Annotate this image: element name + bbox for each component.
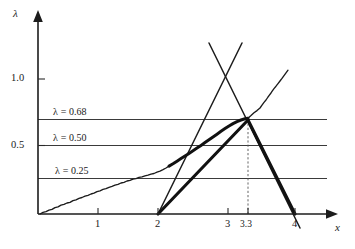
x-tick-label-1: 1 (95, 219, 100, 230)
x-axis-arrow-icon (326, 209, 338, 219)
y-tick-label-1.0: 1.0 (11, 73, 24, 84)
thin-rays-group (158, 43, 300, 228)
empirical-curve-upper-tail (248, 70, 288, 118)
x-axis-title: x (335, 222, 340, 233)
level-value-025: = 0.25 (63, 165, 89, 176)
y-tick-label-0.5: 0.5 (11, 140, 24, 151)
lambda-symbol-068: λ (53, 106, 61, 117)
level-value-050: = 0.50 (61, 132, 87, 143)
x-tick-label-2: 2 (155, 219, 160, 230)
level-label-050: λ= 0.50 (53, 133, 87, 143)
lambda-symbol-050: λ (53, 132, 61, 143)
y-axis-arrow-icon (33, 10, 43, 22)
left-thin-ray (158, 43, 242, 214)
y-axis-title: λ (13, 8, 18, 19)
left-bold-ray (158, 120, 248, 214)
bold-rays-group (158, 120, 295, 214)
x-tick-label-3.3: 3.3 (240, 220, 252, 230)
x-tick-label-4: 4 (292, 219, 297, 230)
level-label-025: λ= 0.25 (55, 166, 89, 176)
chart-figure: λ x 1.0 0.5 1 2 3 3.3 4 λ= 0.68 λ= 0.50 … (0, 0, 355, 249)
right-bold-ray (248, 120, 295, 214)
empirical-curve-bold-segment (169, 118, 248, 166)
tick-marks-group (38, 79, 295, 214)
lambda-symbol-025: λ (55, 165, 63, 176)
plot-canvas (0, 0, 355, 249)
x-tick-label-3: 3 (225, 219, 230, 230)
level-label-068: λ= 0.68 (53, 107, 87, 117)
level-value-068: = 0.68 (61, 106, 87, 117)
